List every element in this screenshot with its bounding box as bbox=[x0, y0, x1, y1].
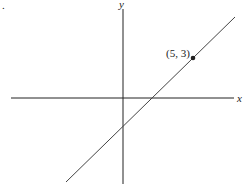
corner-mark: . bbox=[2, 0, 5, 11]
y-axis-label: y bbox=[118, 0, 124, 10]
coordinate-diagram: . x y (5, 3) bbox=[0, 0, 250, 194]
x-axis-label: x bbox=[236, 92, 242, 104]
plotted-line bbox=[66, 17, 235, 182]
point-label: (5, 3) bbox=[166, 47, 190, 60]
point-marker bbox=[191, 56, 196, 61]
